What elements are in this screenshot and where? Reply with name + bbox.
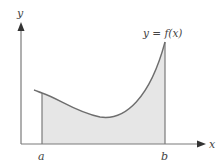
y-axis-arrow-icon — [18, 22, 25, 31]
shaded-area — [42, 42, 165, 144]
bound-label-a: a — [38, 150, 45, 163]
x-axis-arrow-icon — [197, 141, 206, 148]
y-axis-label: y — [16, 7, 24, 20]
curve-label: y = f(x) — [142, 27, 182, 39]
x-axis-label: x — [209, 138, 216, 151]
diagram-canvas: y x y = f(x) a b — [0, 0, 220, 164]
area-under-curve-diagram: y x y = f(x) a b — [0, 0, 220, 164]
bound-label-b: b — [161, 150, 168, 163]
